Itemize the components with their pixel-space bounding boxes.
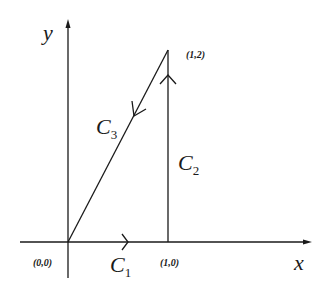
x-axis-arrow-icon — [303, 240, 312, 245]
point-label-1-0: (1,0) — [160, 257, 179, 269]
curve-label-c1: C1 — [110, 252, 131, 280]
x-axis-label: x — [293, 250, 304, 275]
curve-label-c2: C2 — [178, 150, 199, 178]
point-label-origin: (0,0) — [33, 257, 52, 269]
curve-label-c3: C3 — [96, 114, 117, 142]
x-axis — [20, 240, 312, 245]
triangle-path-diagram: y x (0,0) (1,0) (1,2) C1 C2 C3 — [0, 0, 323, 292]
curve-c3 — [68, 50, 168, 242]
y-axis-label: y — [41, 20, 53, 45]
point-label-1-2: (1,2) — [186, 49, 205, 61]
curve-c2 — [160, 50, 176, 242]
y-axis-arrow-icon — [66, 19, 71, 28]
c3-direction-arrow-icon — [132, 101, 146, 116]
